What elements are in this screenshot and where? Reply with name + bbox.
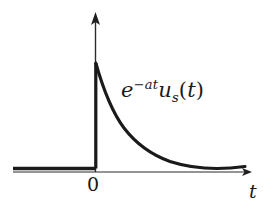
- figure-canvas: e−atus(t) 0 t: [0, 0, 273, 213]
- formula-argument: t: [187, 78, 196, 102]
- formula-paren-close: ): [196, 78, 204, 102]
- x-axis-label: t: [249, 182, 257, 201]
- curve-formula-label: e−atus(t): [121, 78, 204, 104]
- exponential-decay-plot: [0, 0, 273, 213]
- formula-unit-step: u: [158, 78, 172, 102]
- origin-tick-label: 0: [87, 175, 99, 194]
- formula-unit-step-subscript: s: [172, 90, 179, 105]
- formula-base: e: [121, 78, 134, 102]
- formula-exponent: −at: [134, 77, 159, 92]
- formula-paren-open: (: [179, 78, 187, 102]
